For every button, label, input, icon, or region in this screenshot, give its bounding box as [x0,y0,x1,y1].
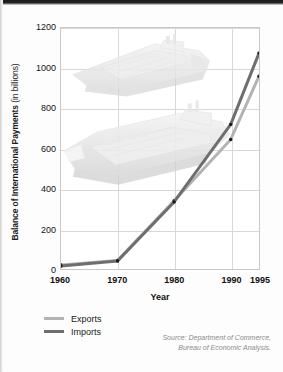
series-line-exports [61,76,259,265]
x-tick-label: 1970 [97,275,137,285]
legend-swatch-icon [44,330,64,333]
data-point-marker [229,138,232,141]
x-tick-label: 1980 [154,275,194,285]
y-tick-label: 800 [12,103,56,113]
y-tick-label: 1200 [12,22,56,32]
plot-area [60,27,260,270]
y-tick-label: 0 [12,265,56,275]
chart-legend: ExportsImports [44,312,164,338]
source-note: Source: Department of Commerce, Bureau o… [162,333,271,352]
source-line-1: Source: Department of Commerce, [162,333,271,343]
y-tick-label: 400 [12,184,56,194]
y-tick-label: 600 [12,144,56,154]
x-tick-label: 1960 [40,275,80,285]
legend-swatch-icon [44,317,64,320]
source-line-2: Bureau of Economic Analysis. [162,343,271,353]
data-point-marker [229,123,232,126]
chart-figure: Balance of International Payments (in bi… [0,0,283,372]
y-tick-label: 200 [12,225,56,235]
series-line-imports [61,53,259,266]
legend-label: Exports [71,314,102,324]
x-axis-title: Year [60,292,260,302]
data-lines [61,28,259,269]
data-point-marker [116,259,119,262]
legend-item[interactable]: Exports [44,312,164,325]
legend-item[interactable]: Imports [44,325,164,338]
x-tick-label: 1995 [240,275,280,285]
legend-label: Imports [71,327,101,337]
data-point-marker [172,200,175,203]
y-tick-label: 1000 [12,63,56,73]
scan-edge-left [0,0,3,372]
